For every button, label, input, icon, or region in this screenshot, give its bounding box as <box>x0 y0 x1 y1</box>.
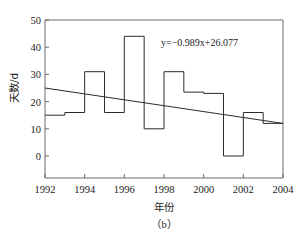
data-series-step <box>45 36 283 156</box>
y-axis-tick-labels: 50 40 30 20 10 0 <box>31 15 42 162</box>
x-tick-label: 2004 <box>273 184 295 195</box>
x-axis-tick-labels: 1992 1994 1996 1998 2000 2002 2004 <box>35 184 295 195</box>
x-tick-label: 2002 <box>233 184 254 195</box>
x-axis-ticks <box>45 174 283 178</box>
y-tick-label: 0 <box>36 151 41 162</box>
x-tick-label: 1996 <box>114 184 135 195</box>
y-tick-label: 30 <box>31 69 42 80</box>
x-tick-label: 1994 <box>74 184 96 195</box>
y-tick-label: 20 <box>31 97 42 108</box>
y-tick-label: 50 <box>31 15 42 26</box>
x-tick-label: 2000 <box>193 184 214 195</box>
x-tick-label: 1992 <box>35 184 56 195</box>
panel-label: （b） <box>151 219 176 230</box>
y-axis-title: 天数/d <box>8 73 20 103</box>
x-axis-title: 年份 <box>154 201 175 213</box>
regression-equation-label: y=−0.989x+26.077 <box>161 37 238 48</box>
step-line-chart: 50 40 30 20 10 0 1992 1994 1996 1998 200… <box>0 0 303 244</box>
y-tick-label: 40 <box>31 42 42 53</box>
y-tick-label: 10 <box>31 124 42 135</box>
chart-figure: 50 40 30 20 10 0 1992 1994 1996 1998 200… <box>0 0 303 244</box>
x-tick-label: 1998 <box>154 184 175 195</box>
